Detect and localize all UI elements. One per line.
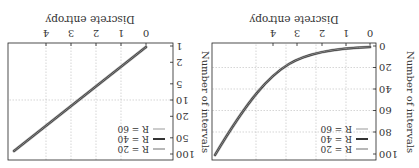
y-tick: 1 — [176, 41, 182, 52]
legend: R = 20 R = 40 R = 60 — [320, 124, 368, 154]
y-tick: 80 — [379, 127, 392, 138]
legend-r20: R = 20 — [320, 144, 352, 154]
x-axis-label: Discrete entropy — [45, 14, 134, 26]
x-tick: 3 — [294, 28, 300, 39]
legend-r60: R = 60 — [117, 124, 149, 134]
legend-r60: R = 60 — [320, 124, 352, 134]
y-tick: 2 — [176, 57, 182, 68]
x-tick: 1 — [118, 28, 124, 39]
legend-r20: R = 20 — [117, 144, 149, 154]
y-tick: 50 — [176, 133, 189, 144]
figure: 0 1 2 3 4 0 20 40 60 80 100 Discrete ent… — [0, 0, 419, 168]
y-tick: 20 — [176, 111, 189, 122]
legend-r40: R = 40 — [320, 134, 352, 144]
x-tick: 2 — [319, 28, 325, 39]
y-tick: 5 — [176, 79, 182, 90]
x-tick: 4 — [270, 28, 276, 39]
x-tick: 1 — [343, 28, 349, 39]
y-axis-label: Number of intervals — [405, 51, 416, 153]
x-tick: 2 — [93, 28, 99, 39]
x-tick: 3 — [68, 28, 74, 39]
y-tick: 20 — [379, 62, 392, 73]
log-scale-chart: 0 1 2 3 4 1 2 5 10 20 50 100 Discrete en… — [0, 0, 210, 168]
legend-r40: R = 40 — [117, 134, 149, 144]
y-tick: 40 — [379, 84, 392, 95]
y-tick: 0 — [379, 41, 385, 52]
x-tick: 4 — [43, 28, 49, 39]
x-axis-label: Discrete entropy — [249, 14, 338, 26]
y-tick: 100 — [176, 149, 195, 160]
y-tick: 10 — [176, 95, 189, 106]
y-tick: 60 — [379, 105, 392, 116]
y-tick: 100 — [379, 149, 398, 160]
linear-scale-chart: 0 1 2 3 4 0 20 40 60 80 100 Discrete ent… — [209, 0, 419, 168]
legend: R = 20 R = 40 R = 60 — [117, 124, 165, 154]
x-tick: 0 — [367, 28, 373, 39]
x-tick: 0 — [143, 28, 149, 39]
y-axis-label: Number of intervals — [200, 51, 210, 153]
